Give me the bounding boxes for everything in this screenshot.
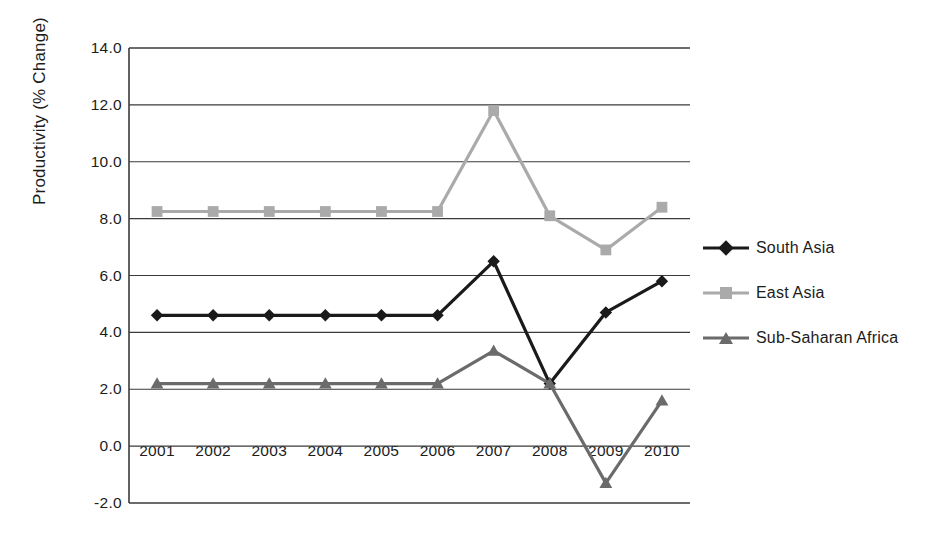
- triangle-icon: [719, 332, 733, 344]
- legend-item-south-asia: South Asia: [703, 236, 938, 260]
- line-chart: Productivity (% Change) 14.012.010.08.06…: [0, 0, 941, 536]
- legend-item-sub-saharan-africa: Sub-Saharan Africa: [703, 326, 938, 350]
- legend-label-east-asia: East Asia: [756, 284, 825, 302]
- legend-marker-sub-saharan-africa: [703, 328, 749, 348]
- legend-item-east-asia: East Asia: [703, 281, 938, 305]
- legend-label-south-asia: South Asia: [756, 239, 835, 257]
- legend-label-sub-saharan-africa: Sub-Saharan Africa: [756, 329, 898, 347]
- diamond-icon: [718, 240, 734, 256]
- chart-legend: South Asia East Asia Sub-Saharan Africa: [703, 236, 938, 371]
- square-icon: [720, 287, 732, 299]
- legend-marker-east-asia: [703, 283, 749, 303]
- legend-marker-south-asia: [703, 238, 749, 258]
